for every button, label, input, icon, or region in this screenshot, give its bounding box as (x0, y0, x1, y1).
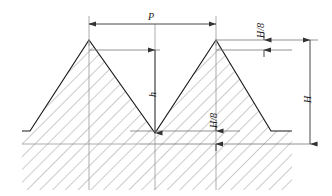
label-thread-depth: h (148, 92, 158, 97)
label-pitch: P (148, 12, 154, 22)
label-h-over-8-root: H/8 (209, 113, 219, 128)
thread-profile-figure: P H/8 H h H/8 (0, 0, 332, 196)
thread-profile-drawing (0, 0, 332, 196)
label-full-height: H (303, 96, 313, 103)
thread-body-hatching (22, 40, 292, 190)
label-h-over-8-top: H/8 (256, 23, 266, 38)
